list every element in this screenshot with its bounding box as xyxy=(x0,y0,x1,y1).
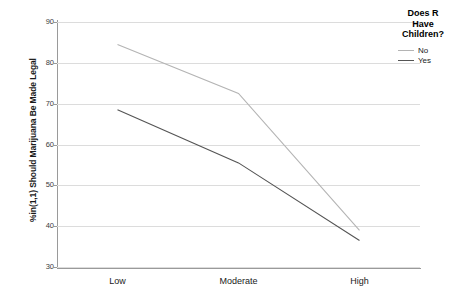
legend-item-yes[interactable]: Yes xyxy=(398,56,476,65)
series-line-no xyxy=(118,45,360,231)
legend-title-line-1: Does R xyxy=(384,8,462,19)
legend-title-line-2: Have xyxy=(384,19,462,30)
legend-title: Does R Have Children? xyxy=(384,8,462,40)
legend-item-label: Yes xyxy=(418,56,431,65)
legend-line-swatch xyxy=(398,60,414,61)
legend-entries: NoYes xyxy=(384,46,476,65)
legend-title-line-3: Children? xyxy=(384,29,462,40)
line-chart: %in(1,1) Should Marijuana Be Made Legal … xyxy=(0,0,476,305)
legend-line-swatch xyxy=(398,50,414,51)
legend-item-no[interactable]: No xyxy=(398,46,476,55)
legend-item-label: No xyxy=(418,46,428,55)
legend: Does R Have Children? NoYes xyxy=(384,8,476,66)
series-line-yes xyxy=(118,110,360,241)
